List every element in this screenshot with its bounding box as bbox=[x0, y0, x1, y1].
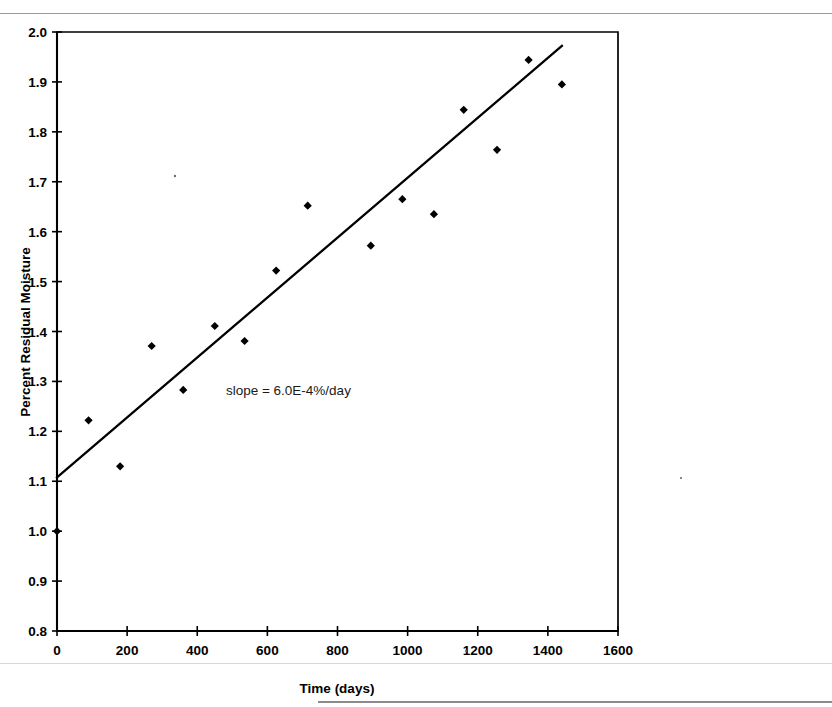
x-axis-title: Time (days) bbox=[300, 681, 375, 696]
plot-frame bbox=[57, 32, 618, 631]
scatter-plot: 0.80.91.01.11.21.31.41.51.61.71.81.92.0 … bbox=[0, 0, 832, 707]
data-point-marker bbox=[460, 106, 468, 114]
chart-annotations: slope = 6.0E-4%/day bbox=[226, 383, 351, 398]
x-tick-label: 400 bbox=[186, 643, 209, 658]
data-point-marker bbox=[179, 386, 187, 394]
slope-annotation: slope = 6.0E-4%/day bbox=[226, 383, 351, 398]
regression-line bbox=[57, 46, 562, 477]
y-tick-label: 1.6 bbox=[28, 225, 47, 240]
y-tick-label: 1.7 bbox=[28, 175, 47, 190]
x-tick-label: 1600 bbox=[603, 643, 633, 658]
scan-speck-upper bbox=[174, 175, 176, 177]
trend-line bbox=[57, 46, 562, 477]
data-point-marker bbox=[558, 80, 566, 88]
data-point-marker bbox=[272, 267, 280, 275]
scan-speck-axis bbox=[465, 650, 467, 652]
data-points bbox=[53, 56, 566, 535]
x-tick-label: 1000 bbox=[393, 643, 423, 658]
x-tick-label: 800 bbox=[326, 643, 349, 658]
x-tick-label: 0 bbox=[53, 643, 61, 658]
data-point-marker bbox=[84, 416, 92, 424]
x-tick-label: 200 bbox=[116, 643, 139, 658]
data-point-marker bbox=[304, 202, 312, 210]
data-point-marker bbox=[240, 337, 248, 345]
scan-speck-lower bbox=[680, 477, 682, 479]
x-tick-label: 1400 bbox=[533, 643, 563, 658]
data-point-marker bbox=[211, 322, 219, 330]
x-axis-tick-labels: 02004006008001000120014001600 bbox=[53, 643, 633, 658]
data-point-marker bbox=[116, 462, 124, 470]
data-point-marker bbox=[367, 242, 375, 250]
y-tick-label: 1.0 bbox=[28, 524, 47, 539]
y-tick-label: 0.8 bbox=[28, 624, 47, 639]
data-point-marker bbox=[398, 195, 406, 203]
y-tick-label: 1.8 bbox=[28, 125, 47, 140]
y-tick-label: 1.9 bbox=[28, 75, 47, 90]
data-point-marker bbox=[493, 146, 501, 154]
chart-page: 0.80.91.01.11.21.31.41.51.61.71.81.92.0 … bbox=[0, 0, 832, 707]
y-tick-label: 2.0 bbox=[28, 25, 47, 40]
x-tick-label: 1200 bbox=[463, 643, 493, 658]
y-tick-label: 1.2 bbox=[28, 424, 47, 439]
x-tick-label: 600 bbox=[256, 643, 279, 658]
y-tick-label: 1.1 bbox=[28, 474, 47, 489]
y-tick-label: 0.9 bbox=[28, 574, 47, 589]
data-point-marker bbox=[148, 342, 156, 350]
data-point-marker bbox=[430, 210, 438, 218]
y-axis-title: Percent Residual Moisture bbox=[18, 247, 33, 417]
data-point-marker bbox=[53, 527, 61, 535]
data-point-marker bbox=[524, 56, 532, 64]
